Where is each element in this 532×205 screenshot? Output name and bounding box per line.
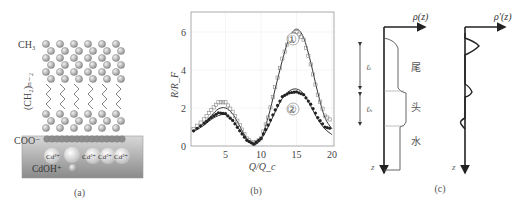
chart-grid <box>191 12 334 146</box>
rho-profile-curve <box>384 38 406 170</box>
label-lt: ℓₜ <box>366 63 371 72</box>
rho-prime-label: ρ′(z) <box>493 11 512 23</box>
langmuir-film-schematic: CH₃ (CH₂)ₙ₋₂ COO⁻ Cd²⁺ Cd²⁺ Cd²⁺ Cd²⁺ Cd… <box>0 0 175 205</box>
reflectivity-chart: 51015200246 R/R_F Q/Q_c ① ② (b) <box>170 0 355 205</box>
z-label-left: z <box>370 162 375 172</box>
svg-text:0: 0 <box>181 141 186 152</box>
chart-series <box>192 29 332 146</box>
label-ch3: CH₃ <box>18 39 35 50</box>
svg-text:5: 5 <box>223 149 228 160</box>
panel-c: ℓₜ ℓₕ 尾 头 水 z ρ(z) z ρ′(z) (c) <box>355 0 532 205</box>
x-axis-label: Q/Q_c <box>249 161 276 172</box>
caption-a: (a) <box>74 187 85 199</box>
panel-a: CH₃ (CH₂)ₙ₋₂ COO⁻ Cd²⁺ Cd²⁺ Cd²⁺ Cd²⁺ Cd… <box>0 0 175 205</box>
alkyl-chains <box>42 40 125 142</box>
svg-text:20: 20 <box>327 149 337 160</box>
label-coo: COO⁻ <box>14 135 40 146</box>
z-label-right: z <box>451 162 456 172</box>
svg-text:4: 4 <box>181 65 186 76</box>
label-cd-3: Cd²⁺ <box>98 153 112 161</box>
label-cd-1: Cd²⁺ <box>46 153 60 161</box>
region-head: 头 <box>411 102 421 113</box>
region-tail: 尾 <box>411 62 421 73</box>
label-lh: ℓₕ <box>366 105 373 114</box>
svg-text:10: 10 <box>256 149 266 160</box>
curve-label-1: ① <box>287 33 297 45</box>
panel-b: 51015200246 R/R_F Q/Q_c ① ② (b) <box>170 0 355 205</box>
svg-text:6: 6 <box>181 27 186 38</box>
y-axis-label: R/R_F <box>170 71 180 99</box>
svg-text:2: 2 <box>181 103 186 114</box>
caption-c: (c) <box>434 183 445 195</box>
rho-prime-curve <box>461 33 480 129</box>
label-cdoh: CdOH⁺ <box>32 164 62 174</box>
label-cd-4: Cd²⁺ <box>114 153 128 161</box>
density-profile-diagram: ℓₜ ℓₕ 尾 头 水 z ρ(z) z ρ′(z) (c) <box>355 0 532 205</box>
svg-text:15: 15 <box>292 149 302 160</box>
caption-b: (b) <box>250 185 262 197</box>
label-ch2: (CH₂)ₙ₋₂ <box>22 73 34 110</box>
curve-label-2: ② <box>287 103 297 115</box>
rho-label: ρ(z) <box>412 11 429 23</box>
label-cd-2: Cd²⁺ <box>82 153 96 161</box>
region-water: 水 <box>411 136 421 147</box>
